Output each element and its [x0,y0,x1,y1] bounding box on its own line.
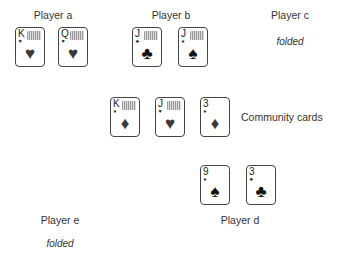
player-a-card-1: K ♥ ♥ [15,27,45,67]
club-icon: ♣ [136,38,140,44]
heart-icon: ♥ [159,108,162,114]
player-b-label: Player b [152,9,191,21]
face-card-art-icon [144,31,158,40]
club-icon: ♣ [250,176,254,182]
player-d-card-2: 3 ♣ ♣ [246,165,276,205]
community-card-2: J ♥ ♥ [155,97,185,137]
diamond-icon: ♦ [114,108,117,114]
player-b-card-2: J ♠ ♠ [178,27,208,67]
heart-icon: ♥ [62,38,65,44]
player-b-card-1: J ♣ ♣ [132,27,162,67]
face-card-art-icon [70,31,84,40]
player-d-label: Player d [221,214,260,226]
player-e-label: Player e [41,214,80,226]
community-card-3: 3 ♦ ♦ [200,97,230,137]
heart-icon: ♥ [16,45,44,63]
community-cards-label: Community cards [241,111,323,123]
heart-icon: ♥ [59,45,87,63]
diamond-icon: ♦ [201,115,229,133]
face-card-art-icon [190,31,204,40]
face-card-art-icon [167,101,181,110]
spade-icon: ♠ [201,183,229,201]
club-icon: ♣ [133,45,161,63]
heart-icon: ♥ [156,115,184,133]
player-a-label: Player a [34,9,73,21]
player-e-status: folded [46,238,73,249]
player-d-card-1: 9 ♠ ♠ [200,165,230,205]
spade-icon: ♠ [204,176,207,182]
player-c-label: Player c [271,9,309,21]
spade-icon: ♠ [179,45,207,63]
player-c-status: folded [276,36,303,47]
face-card-art-icon [27,31,41,40]
community-card-1: K ♦ ♦ [110,97,140,137]
heart-icon: ♥ [19,38,22,44]
diamond-icon: ♦ [204,108,207,114]
face-card-art-icon [122,101,136,110]
spade-icon: ♠ [182,38,185,44]
player-a-card-2: Q ♥ ♥ [58,27,88,67]
diamond-icon: ♦ [111,115,139,133]
club-icon: ♣ [247,183,275,201]
